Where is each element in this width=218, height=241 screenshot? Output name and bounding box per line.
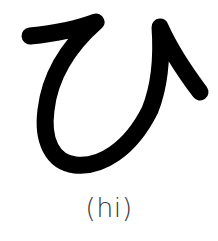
hiragana-hi-glyph bbox=[0, 0, 218, 190]
kana-stroke bbox=[30, 22, 200, 165]
romaji-label: (hi) bbox=[0, 192, 218, 223]
